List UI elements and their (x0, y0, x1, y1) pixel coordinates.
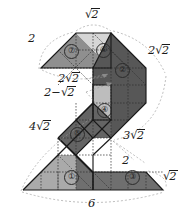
piece-label-1: ① (64, 170, 79, 185)
radicand-right: 2 (137, 129, 145, 142)
piece-wedge-shape (76, 155, 93, 190)
coefficient-left: 4 (29, 119, 36, 133)
radicand-lower-right: 2 (169, 170, 177, 183)
dimension-label-lower-right-sqrt2: √2 (163, 170, 178, 183)
radicand-upper-right: 2 (162, 44, 170, 57)
radicand-top-sqrt2: 2 (91, 8, 99, 21)
piece-label-2: ② (115, 63, 130, 78)
coefficient-upper-right: 2 (148, 43, 155, 57)
dimension-label-mid-2sqrt2: 2√2 (58, 72, 80, 85)
coefficient-right: 3 (123, 128, 130, 142)
tangram-figure: √2 2 2√2 2√2 2−√2 4√2 3√2 2 √2 6 ① ② ③ ④… (0, 0, 182, 216)
dimension-label-right-3sqrt2: 3√2 (123, 129, 145, 142)
piece-label-3: ③ (125, 170, 140, 185)
dimension-label-mid-2-minus-sqrt2: 2−√2 (44, 86, 76, 99)
coefficient-mid-minus: 2− (44, 85, 61, 99)
dimension-label-upper-right-2sqrt2: 2√2 (148, 44, 170, 57)
dimension-label-top-sqrt2: √2 (85, 8, 100, 21)
dimension-label-top-left-2: 2 (28, 33, 35, 45)
piece-label-4: ④ (97, 103, 112, 118)
piece-label-7: ⑦ (64, 44, 79, 59)
dimension-label-lower-right-2: 2 (122, 155, 129, 167)
piece-label-5: ⑤ (70, 127, 85, 142)
radicand-mid-minus: 2 (67, 86, 75, 99)
radicand-mid: 2 (72, 72, 80, 85)
dimension-label-bottom-6: 6 (88, 198, 95, 210)
radicand-left: 2 (43, 120, 51, 133)
piece-label-6: ⑥ (96, 43, 111, 58)
dimension-label-left-4sqrt2: 4√2 (29, 120, 51, 133)
coefficient-mid: 2 (58, 71, 65, 85)
